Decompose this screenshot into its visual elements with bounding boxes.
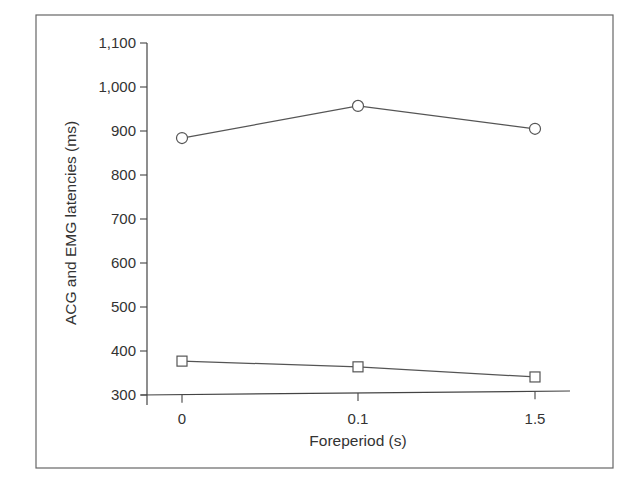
x-tick-label: 0 — [178, 410, 186, 427]
y-tick-label: 900 — [111, 122, 136, 139]
x-axis-label: Foreperiod (s) — [309, 432, 406, 449]
x-tick-label: 0.1 — [348, 410, 369, 427]
axes — [141, 43, 570, 405]
square-marker — [177, 356, 187, 366]
line-chart: 3004005006007008009001,0001,100 00.11.5 … — [0, 0, 640, 490]
circle-marker — [353, 100, 364, 111]
y-axis-label: ACG and EMG latencies (ms) — [62, 121, 79, 325]
x-axis-ticks: 00.11.5 — [178, 391, 546, 427]
square-marker — [353, 362, 363, 372]
circle-series — [177, 100, 541, 143]
x-tick-label: 1.5 — [525, 410, 546, 427]
y-tick-label: 1,100 — [98, 34, 136, 51]
x-axis-line — [141, 391, 570, 395]
y-tick-label: 600 — [111, 254, 136, 271]
circle-marker — [177, 133, 188, 144]
square-marker — [530, 372, 540, 382]
y-tick-label: 300 — [111, 386, 136, 403]
y-tick-label: 400 — [111, 342, 136, 359]
y-tick-label: 800 — [111, 166, 136, 183]
square-series — [177, 356, 540, 382]
data-series — [177, 100, 541, 382]
circle-marker — [530, 123, 541, 134]
y-tick-label: 700 — [111, 210, 136, 227]
y-tick-label: 1,000 — [98, 78, 136, 95]
y-axis-ticks: 3004005006007008009001,0001,100 — [98, 34, 147, 403]
y-tick-label: 500 — [111, 298, 136, 315]
